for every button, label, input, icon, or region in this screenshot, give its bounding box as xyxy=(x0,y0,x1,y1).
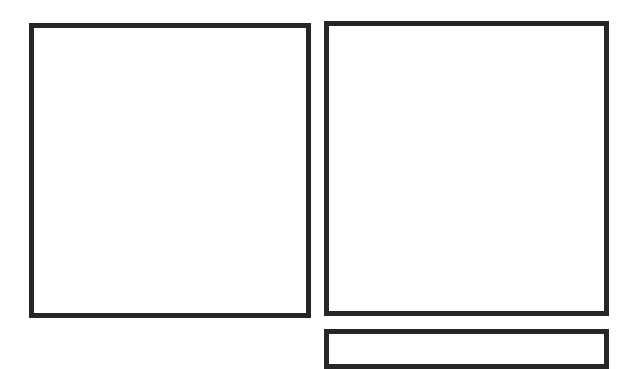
empty-panel-left xyxy=(29,23,311,318)
empty-panel-right-bottom xyxy=(324,329,609,369)
empty-panel-right-top xyxy=(324,21,609,316)
